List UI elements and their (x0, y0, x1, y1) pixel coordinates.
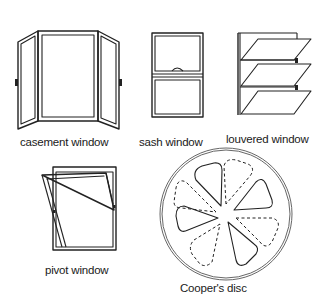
coopers-disc-label: Cooper's disc (180, 282, 247, 294)
pivot-window-illustration (42, 167, 116, 250)
sash-window-label: sash window (139, 136, 203, 148)
coopers-disc-illustration (160, 148, 292, 280)
louvered-window-illustration (238, 33, 311, 115)
window-types-diagram (0, 0, 327, 300)
casement-window-label: casement window (20, 136, 108, 148)
hinge-icon (15, 79, 18, 86)
louvered-window-label: louvered window (226, 133, 309, 145)
casement-window-illustration (15, 31, 122, 129)
sash-window-illustration (152, 33, 203, 117)
pivot-window-label: pivot window (45, 264, 108, 276)
hinge-icon (119, 79, 122, 86)
